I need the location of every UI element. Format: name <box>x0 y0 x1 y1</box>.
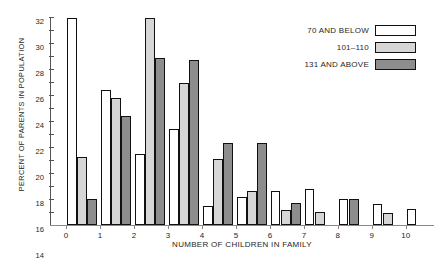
bar <box>257 143 267 225</box>
bar <box>203 206 213 226</box>
bar <box>213 159 223 225</box>
bar <box>77 157 87 225</box>
bar <box>145 18 155 225</box>
bar <box>315 212 325 225</box>
x-tick-label: 2 <box>124 232 144 240</box>
y-tick-label: 22 <box>36 148 44 156</box>
y-axis-title: PERCENT OF PARENTS IN POPULATION <box>17 20 26 210</box>
y-tick-label: 18 <box>36 200 44 208</box>
x-tick-label: 0 <box>56 232 76 240</box>
x-tick-label: 10 <box>396 232 416 240</box>
legend-label: 101–110 <box>337 43 369 52</box>
legend-swatch-101-110 <box>375 42 416 53</box>
bar <box>121 116 131 225</box>
legend-item: 131 AND ABOVE <box>256 58 416 71</box>
bar <box>67 18 77 225</box>
bar <box>339 199 349 225</box>
y-tick-label: 32 <box>36 18 44 26</box>
x-tick-label: 1 <box>90 232 110 240</box>
y-tick-label: 28 <box>36 70 44 78</box>
x-tick-label: 5 <box>226 232 246 240</box>
bar <box>305 189 315 225</box>
y-tick-label: 24 <box>36 122 44 130</box>
bar <box>373 204 383 225</box>
bar <box>291 203 301 225</box>
bar <box>271 191 281 225</box>
x-tick-label: 8 <box>328 232 348 240</box>
y-tick-label: 20 <box>36 174 44 182</box>
bar <box>179 83 189 225</box>
legend-item: 70 AND BELOW <box>256 24 416 37</box>
bar <box>155 58 165 225</box>
bar <box>101 90 111 225</box>
bar <box>87 199 97 225</box>
chart-legend: 70 AND BELOW 101–110 131 AND ABOVE <box>256 24 416 75</box>
legend-item: 101–110 <box>256 41 416 54</box>
bar <box>223 143 233 225</box>
bar <box>383 213 393 225</box>
x-tick-label: 9 <box>362 232 382 240</box>
x-axis-title: NUMBER OF CHILDREN IN FAMILY <box>50 240 434 249</box>
y-tick-label: 26 <box>36 96 44 104</box>
y-tick-label: 14 <box>36 252 44 260</box>
bar <box>407 209 417 225</box>
bar <box>189 60 199 225</box>
bar <box>281 210 291 225</box>
x-tick-label: 7 <box>294 232 314 240</box>
bar-chart: PERCENT OF PARENTS IN POPULATION 2468101… <box>0 0 446 271</box>
y-tick-label: 16 <box>36 226 44 234</box>
bar <box>237 197 247 225</box>
legend-swatch-70-and-below <box>375 25 416 36</box>
legend-label: 70 AND BELOW <box>307 26 369 35</box>
x-tick-label: 4 <box>192 232 212 240</box>
x-tick-label: 3 <box>158 232 178 240</box>
bar <box>111 98 121 225</box>
bar <box>135 154 145 226</box>
legend-swatch-131-and-above <box>375 59 416 70</box>
x-tick-label: 6 <box>260 232 280 240</box>
legend-label: 131 AND ABOVE <box>304 60 369 69</box>
y-tick-label: 30 <box>36 44 44 52</box>
bar <box>169 129 179 225</box>
bar <box>349 199 359 225</box>
bar <box>247 191 257 225</box>
